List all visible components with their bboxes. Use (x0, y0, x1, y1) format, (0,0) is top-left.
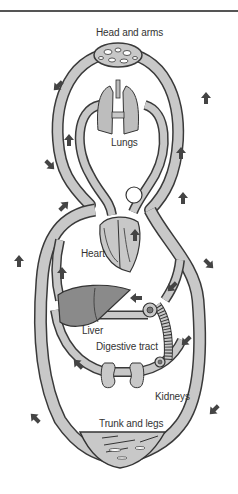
arrow-head-right-icon (201, 92, 211, 104)
label-digestive-tract: Digestive tract (96, 341, 158, 352)
lungs (98, 80, 139, 134)
label-heart: Heart (81, 248, 105, 259)
label-head-and-arms: Head and arms (96, 27, 163, 38)
arrow-right-mid-icon (201, 256, 217, 272)
arrow-portal-icon (130, 293, 142, 303)
arrow-trunk-right-icon (206, 402, 222, 418)
arrow-trunk-left-icon (27, 410, 43, 426)
label-kidneys: Kidneys (155, 391, 190, 402)
liver (58, 285, 130, 326)
vessel-pulmonary-loop (80, 105, 164, 215)
digestive-tract (143, 303, 168, 367)
label-lungs: Lungs (111, 137, 138, 148)
trunk-capillary-bed (80, 432, 165, 468)
head-capillary-bed (94, 43, 142, 67)
arrow-lung-left-icon (64, 134, 74, 146)
arrow-heart-left-icon (56, 198, 72, 214)
label-trunk-and-legs: Trunk and legs (99, 418, 163, 429)
arrow-heart-right-icon (178, 192, 188, 204)
label-liver: Liver (82, 325, 103, 336)
arrow-left-mid-icon (14, 255, 24, 267)
